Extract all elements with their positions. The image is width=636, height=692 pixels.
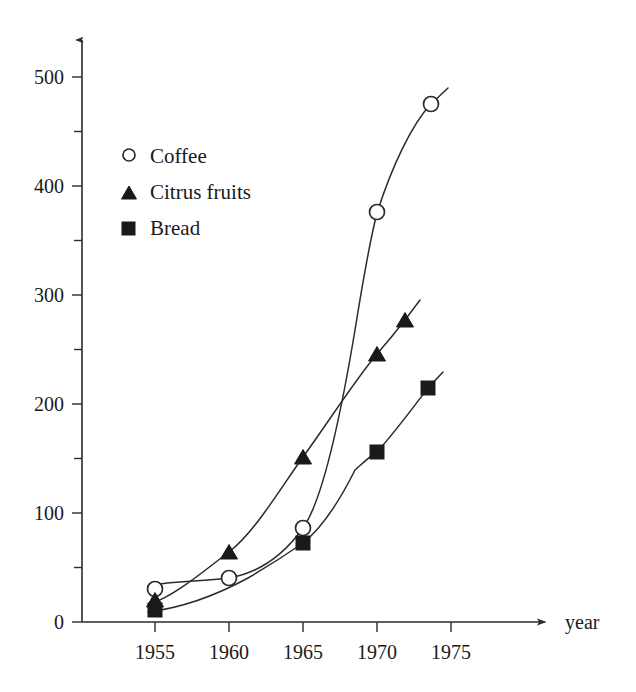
legend-item-bread: Bread	[122, 216, 201, 240]
x-tick-label-1965: 1965	[283, 641, 323, 663]
y-tick-label-100: 100	[34, 502, 64, 524]
y-tick-label-500: 500	[34, 66, 64, 88]
bread-point-1974	[421, 381, 435, 395]
bread-point-1955	[148, 603, 162, 617]
bread-point-1965	[296, 536, 310, 550]
y-tick-label-300: 300	[34, 284, 64, 306]
citrus-point-1972	[397, 313, 414, 328]
legend-label-bread: Bread	[150, 216, 201, 240]
coffee-point-1970	[370, 205, 385, 220]
axes	[82, 40, 545, 622]
x-tick-label-1975: 1975	[431, 641, 471, 663]
y-axis-tick-labels: 0 100 200 300 400 500	[34, 66, 64, 633]
y-tick-label-400: 400	[34, 175, 64, 197]
chart-legend: Coffee Citrus fruits Bread	[122, 144, 251, 240]
open-circle-icon	[123, 149, 135, 161]
x-axis-ticks	[155, 622, 451, 632]
chart-canvas: 0 100 200 300 400 500 1955 1960 1965 197…	[0, 0, 636, 692]
filled-triangle-icon	[122, 186, 137, 199]
line-chart: 0 100 200 300 400 500 1955 1960 1965 197…	[0, 0, 636, 692]
x-axis-label: year	[565, 611, 600, 634]
citrus-point-1970	[369, 347, 386, 362]
y-axis-ticks	[72, 77, 82, 622]
legend-label-coffee: Coffee	[150, 144, 207, 168]
coffee-point-1974	[424, 97, 439, 112]
coffee-point-1960	[222, 571, 237, 586]
bread-line	[148, 372, 443, 612]
bread-point-1970	[370, 445, 384, 459]
filled-square-icon	[122, 222, 135, 235]
legend-label-citrus-fruits: Citrus fruits	[150, 180, 251, 204]
y-tick-label-200: 200	[34, 393, 64, 415]
legend-item-coffee: Coffee	[123, 144, 207, 168]
legend-item-citrus-fruits: Citrus fruits	[122, 180, 251, 204]
y-tick-label-0: 0	[54, 611, 64, 633]
x-tick-label-1955: 1955	[135, 641, 175, 663]
x-tick-label-1960: 1960	[209, 641, 249, 663]
x-tick-label-1970: 1970	[357, 641, 397, 663]
citrus-point-1965	[295, 450, 312, 465]
coffee-point-1965	[296, 521, 311, 536]
x-axis-tick-labels: 1955 1960 1965 1970 1975	[135, 641, 471, 663]
